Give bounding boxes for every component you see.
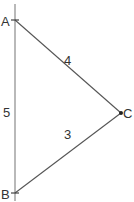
- edge-ac-length-label: 4: [64, 53, 71, 68]
- edge-bc-line: [15, 113, 121, 193]
- vertex-a-label: A: [1, 14, 10, 29]
- vertex-c-label: C: [123, 106, 132, 121]
- vertex-b-label: B: [1, 187, 10, 202]
- edge-bc-length-label: 3: [64, 127, 71, 142]
- triangle-diagram: A B C 4 3 5: [0, 0, 134, 202]
- edge-ab-length-label: 5: [3, 105, 10, 120]
